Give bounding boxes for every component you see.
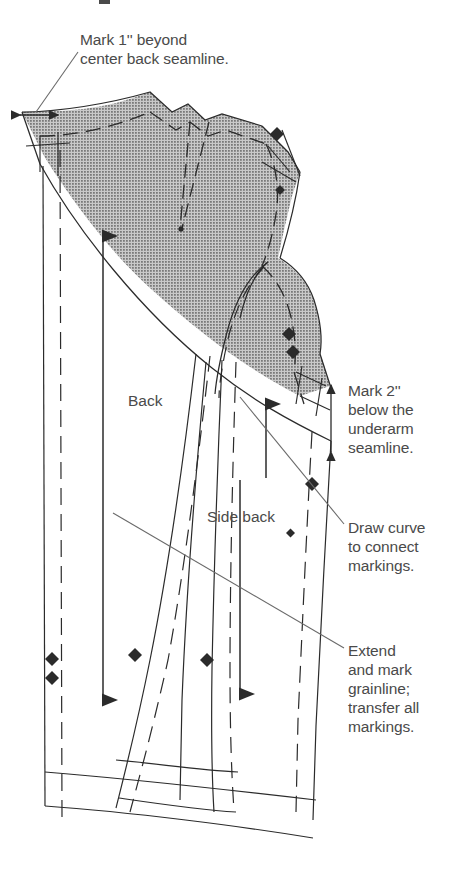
annotation-mark-2-inch: Mark 2'' below the underarm seamline. (348, 381, 460, 457)
annotation-mark-1-inch: Mark 1'' beyond center back seamline. (80, 30, 310, 68)
part-label-side-back: Side back (207, 508, 275, 526)
part-label-back: Back (128, 392, 162, 410)
side-back-piece (116, 354, 238, 812)
annotation-draw-curve: Draw curve to connect markings. (348, 518, 460, 575)
annotation-extend-grainline: Extend and mark grainline; transfer all … (348, 641, 460, 736)
dart-point (178, 226, 183, 231)
diagram-canvas: Mark 1'' beyond center back seamline. Ma… (0, 0, 460, 883)
